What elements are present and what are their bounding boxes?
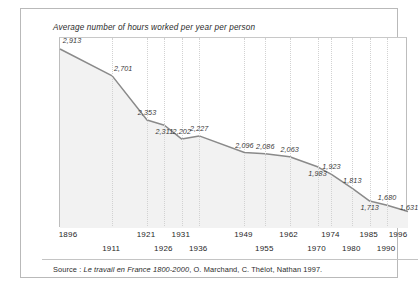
source-note: Source : Le travail en France 1800-2000,… (53, 265, 322, 274)
x-axis-tick-label: 1931 (171, 230, 190, 239)
x-axis-tick-label: 1980 (342, 244, 361, 253)
gridline (318, 38, 319, 226)
data-point-label: 2,063 (280, 145, 299, 154)
source-prefix: Source : (53, 265, 83, 274)
data-point-label: 1,923 (322, 162, 341, 171)
gridline (290, 38, 291, 226)
data-point-label: 1,631 (400, 203, 418, 212)
data-point-label: 1,713 (360, 203, 379, 212)
data-point-label: 1,680 (378, 193, 397, 202)
gridline (331, 38, 332, 226)
chart-card: Average number of hours worked per year … (20, 8, 398, 278)
source-title: Le travail en France 1800-2000 (83, 265, 189, 274)
data-point-label: 2,227 (190, 124, 209, 133)
data-point-label: 2,311 (155, 127, 173, 136)
x-axis-tick-label: 1926 (154, 244, 173, 253)
gridline (244, 38, 245, 226)
x-axis-tick-label: 1936 (189, 244, 208, 253)
x-axis-labels: 1896191119211926193119361949195519621970… (59, 228, 407, 262)
x-axis-tick-label: 1990 (377, 244, 396, 253)
source-rest: , O. Marchand, C. Thélot, Nathan 1997. (189, 265, 322, 274)
x-axis-tick-label: 1896 (59, 230, 78, 239)
x-axis-tick-label: 1970 (307, 244, 326, 253)
gridline (265, 38, 266, 226)
data-point-label: 2,096 (235, 141, 254, 150)
data-point-label: 2,353 (138, 108, 157, 117)
plot-inner: 2,9132,7012,3532,3112,2022,2272,0962,086… (60, 38, 406, 226)
data-point-label: 2,086 (256, 142, 275, 151)
data-point-label: 2,202 (173, 127, 192, 136)
x-axis-tick-label: 1921 (137, 230, 156, 239)
data-point-label: 2,913 (63, 36, 82, 45)
gridline (352, 38, 353, 226)
gridline (370, 38, 371, 226)
data-point-label: 2,701 (114, 64, 133, 73)
x-axis-tick-label: 1974 (321, 230, 340, 239)
x-axis-tick-label: 1911 (102, 244, 120, 253)
source-divider: Source : Le travail en France 1800-2000,… (42, 259, 418, 285)
x-axis-tick-label: 1962 (279, 230, 298, 239)
gridline (147, 38, 148, 226)
x-axis-tick-label: 1985 (359, 230, 378, 239)
x-axis-tick-label: 1955 (255, 244, 274, 253)
plot-area: 2,9132,7012,3532,3112,2022,2272,0962,086… (59, 37, 407, 227)
x-axis-tick-label: 1949 (234, 230, 253, 239)
data-point-label: 1,813 (343, 176, 362, 185)
x-axis-tick-label: 1996 (389, 230, 408, 239)
chart-title: Average number of hours worked per year … (53, 23, 255, 32)
